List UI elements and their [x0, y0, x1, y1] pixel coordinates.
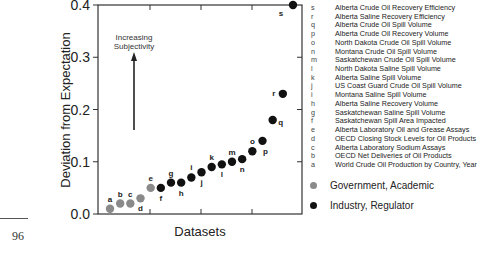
point-label: l: [221, 170, 223, 179]
dataset-key-item: aWorld Crude Oil Production by Country, …: [308, 161, 484, 170]
legend-government-academic: Government, Academic: [310, 180, 434, 191]
point-label: s: [279, 9, 284, 18]
point-label: b: [118, 190, 123, 199]
point-label: r: [272, 89, 275, 98]
data-point-o: [248, 147, 256, 155]
y-tick-label: 0.4: [71, 0, 91, 13]
y-tick-label: 0.0: [71, 206, 91, 222]
dataset-key-list: sAlberta Crude Oil Recovery EfficiencyrA…: [308, 4, 484, 170]
point-label: q: [278, 118, 283, 127]
dataset-letter: a: [308, 161, 335, 170]
annotation-line-1: Increasing: [116, 33, 153, 42]
data-point-b: [116, 199, 124, 207]
y-tick-label: 0.2: [71, 102, 91, 118]
point-label: n: [240, 165, 245, 174]
gray-dot-icon: [310, 182, 317, 189]
point-label: d: [138, 204, 143, 213]
y-tick-label: 0.1: [71, 154, 91, 170]
point-label: j: [199, 178, 202, 187]
point-label: h: [179, 189, 184, 198]
data-point-h: [177, 178, 185, 186]
point-label: p: [263, 147, 268, 156]
data-point-f: [157, 184, 165, 192]
data-point-r: [279, 90, 287, 98]
data-point-q: [268, 116, 276, 124]
data-point-a: [106, 205, 114, 213]
point-label: c: [128, 190, 133, 199]
subjectivity-annotation: Increasing Subjectivity: [114, 33, 154, 130]
black-dot-icon: [310, 202, 317, 209]
data-point-k: [207, 163, 215, 171]
data-point-s: [289, 1, 297, 9]
legend-industry-regulator: Industry, Regulator: [310, 200, 414, 211]
x-axis-label: Datasets: [174, 224, 226, 239]
legend-label: Government, Academic: [330, 180, 434, 191]
legend-label: Industry, Regulator: [330, 200, 414, 211]
annotation-line-2: Subjectivity: [114, 42, 154, 51]
point-label: g: [169, 169, 174, 178]
point-label: k: [209, 153, 214, 162]
point-label: i: [190, 163, 192, 172]
data-point-i: [187, 173, 195, 181]
page-rule: [0, 218, 28, 219]
data-point-p: [258, 137, 266, 145]
data-point-d: [136, 194, 144, 202]
point-label: e: [148, 174, 153, 183]
point-label: o: [250, 137, 255, 146]
data-point-c: [126, 199, 134, 207]
y-axis-label: Deviation from Expectation: [58, 32, 73, 187]
y-tick-label: 0.3: [71, 49, 91, 65]
data-point-e: [146, 184, 154, 192]
data-point-l: [218, 160, 226, 168]
point-label: f: [159, 194, 162, 203]
point-label: m: [228, 148, 235, 157]
dataset-name: World Crude Oil Production by Country, Y…: [335, 161, 484, 170]
data-point-g: [167, 178, 175, 186]
data-point-j: [197, 168, 205, 176]
page-number: 96: [12, 229, 24, 244]
y-tick-labels: 0.00.10.20.30.4: [71, 0, 91, 222]
data-point-m: [228, 158, 236, 166]
up-arrow-icon: [131, 52, 137, 61]
point-label: a: [108, 195, 113, 204]
data-point-n: [238, 155, 246, 163]
